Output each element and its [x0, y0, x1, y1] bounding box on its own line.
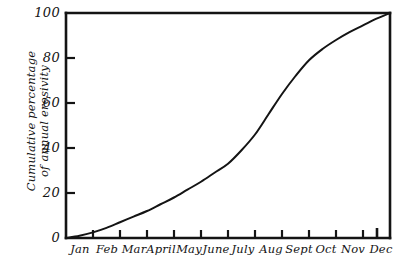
x-axis-tick-labels: Jan Feb Mar April May June July Aug Sept…	[0, 0, 405, 263]
x-tick-label-dec: Dec	[359, 243, 403, 255]
chart-figure: Cumulative percentage of annual erosivit…	[0, 0, 405, 263]
